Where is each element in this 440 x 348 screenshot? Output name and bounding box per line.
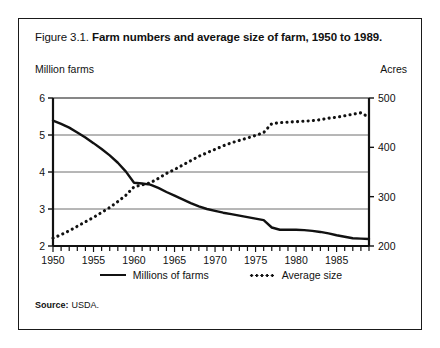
x-tick-label: 1955	[82, 254, 106, 266]
data-series-layer	[53, 113, 369, 239]
dotted-line-swatch-icon	[249, 274, 275, 277]
x-tick-label: 1950	[41, 254, 65, 266]
x-tick-label: 1985	[325, 254, 349, 266]
source-note: Source:USDA.	[35, 300, 99, 310]
plot-area: 6543250040030020019501955196019651970197…	[19, 19, 423, 331]
x-tick-label: 1970	[203, 254, 227, 266]
right-tick-label: 500	[378, 92, 396, 104]
right-tick-label: 300	[378, 191, 396, 203]
figure-panel: Figure 3.1. Farm numbers and average siz…	[18, 18, 422, 330]
gridlines	[53, 135, 369, 209]
series-line-1	[53, 121, 369, 239]
source-label: Source:	[35, 300, 69, 310]
legend-item-farms: Millions of farms	[100, 269, 209, 281]
left-tick-label: 2	[39, 240, 45, 252]
left-tick-label: 6	[39, 92, 45, 104]
legend-label-average-size: Average size	[282, 269, 343, 281]
source-value: USDA.	[72, 300, 100, 310]
left-tick-label: 4	[39, 166, 45, 178]
series-line-2	[53, 113, 369, 238]
x-tick-label: 1980	[284, 254, 308, 266]
chart-legend: Millions of farms Average size	[19, 269, 423, 281]
legend-label-farms: Millions of farms	[133, 269, 209, 281]
x-tick-label: 1975	[244, 254, 268, 266]
left-tick-label: 3	[39, 203, 45, 215]
solid-line-swatch-icon	[100, 274, 126, 276]
chart-svg: 6543250040030020019501955196019651970197…	[19, 19, 423, 331]
right-tick-label: 200	[378, 240, 396, 252]
x-tick-label: 1960	[122, 254, 146, 266]
right-tick-label: 400	[378, 141, 396, 153]
legend-item-average-size: Average size	[249, 269, 343, 281]
x-tick-label: 1965	[163, 254, 187, 266]
left-tick-label: 5	[39, 129, 45, 141]
tick-labels: 6543250040030020019501955196019651970197…	[39, 92, 396, 266]
